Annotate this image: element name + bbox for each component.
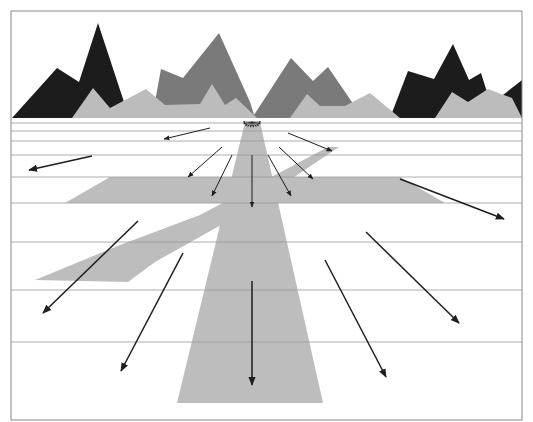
diagram-canvas xyxy=(0,0,533,422)
horizon-strip xyxy=(11,118,522,122)
optical-flow-diagram xyxy=(0,0,533,422)
